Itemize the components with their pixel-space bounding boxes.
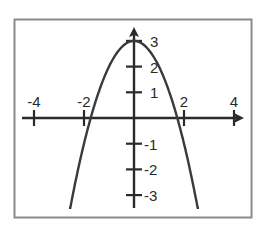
y-tick-label: -2 [144, 161, 157, 178]
y-tick-label: -3 [144, 187, 157, 204]
x-tick-label: -4 [27, 93, 40, 110]
x-tick-label: 2 [180, 93, 188, 110]
x-tick-label: -2 [77, 93, 90, 110]
y-tick-label: -1 [144, 136, 157, 153]
parabola-chart: -4-224321-1-2-3 [0, 0, 265, 225]
x-tick-label: 4 [230, 93, 238, 110]
y-tick-label: 1 [150, 84, 158, 101]
y-tick-label: 3 [150, 33, 158, 50]
